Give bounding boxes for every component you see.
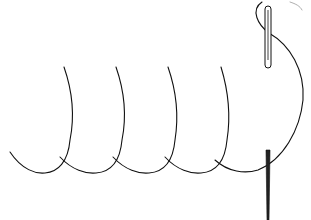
stitch-loop-4 xyxy=(165,67,229,173)
stitch-loop-3 xyxy=(113,67,177,173)
lower-needle-icon xyxy=(266,150,270,220)
thread-tail-end xyxy=(290,2,302,10)
caption xyxy=(60,212,260,220)
stitch-diagram xyxy=(0,0,311,220)
stitch-loop-2 xyxy=(60,67,124,173)
upper-needle-icon xyxy=(265,6,271,68)
stitch-loop-1 xyxy=(10,67,72,173)
